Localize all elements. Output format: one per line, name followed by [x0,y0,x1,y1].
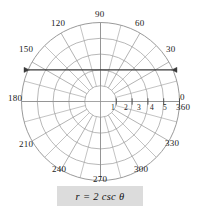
radial-label-2: 2 [124,104,128,112]
angle-label-240: 240 [52,165,66,174]
grid-spoke-315 [112,113,157,158]
grid-spoke-300 [108,115,140,170]
grid-spoke-285 [105,117,121,178]
grid-spoke-150 [32,62,87,94]
grid-spoke-45 [112,46,157,91]
grid-spoke-30 [114,62,169,94]
equation-text: r = 2 csc θ [76,191,125,202]
radial-label-5: 5 [163,104,167,112]
angle-label-90: 90 [95,10,104,19]
equation-box: r = 2 csc θ [57,186,143,206]
angle-label-30: 30 [166,45,175,54]
grid-spoke-15 [116,81,177,97]
angle-label-300: 300 [134,165,148,174]
angle-label-150: 150 [19,45,33,54]
grid-spoke-225 [45,113,90,158]
grid-spoke-195 [24,106,85,122]
grid-spoke-75 [105,25,121,86]
radial-label-4: 4 [150,104,154,112]
radial-label-3: 3 [137,104,141,112]
angle-label-360: 360 [176,103,190,112]
grid-spoke-210 [32,109,87,141]
grid-spoke-60 [108,33,140,88]
grid-spoke-105 [80,25,96,86]
angle-label-120: 120 [51,19,65,28]
radial-label-1: 1 [111,104,115,112]
angle-label-0: 0 [180,93,185,102]
grid-spoke-120 [61,33,93,88]
polar-plot-figure: 0360306090120150180210240270300330 12345… [0,0,200,213]
grid-spoke-240 [61,115,93,170]
grid-spoke-135 [45,46,90,91]
grid-spoke-330 [114,109,169,141]
angle-label-180: 180 [8,94,22,103]
angle-label-60: 60 [135,19,144,28]
angle-label-270: 270 [93,175,107,184]
grid-spoke-165 [24,81,85,97]
angle-label-330: 330 [165,139,179,148]
angle-label-210: 210 [19,140,33,149]
grid-spoke-255 [80,117,96,178]
